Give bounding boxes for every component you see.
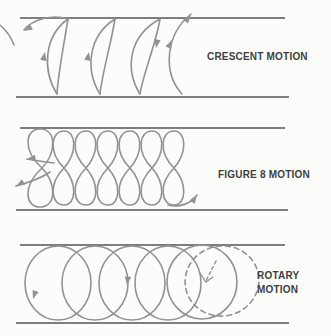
rotary-motion-label-line1: ROTARY bbox=[257, 269, 299, 283]
motion-patterns-diagram: CRESCENT MOTION FIGURE 8 MOTION ROTARY M… bbox=[0, 0, 331, 336]
rotary-motion-label: ROTARY MOTION bbox=[257, 269, 299, 297]
rotary-arrowheads bbox=[30, 276, 131, 300]
rotary-circles bbox=[25, 239, 265, 323]
figure8-motion-label: FIGURE 8 MOTION bbox=[218, 169, 310, 180]
rotary-motion-label-line2: MOTION bbox=[257, 283, 299, 297]
dashed-direction-arrow bbox=[200, 261, 216, 282]
figure8-curves bbox=[16, 129, 197, 207]
crescent-motion-label: CRESCENT MOTION bbox=[207, 51, 308, 62]
rotary-motion-drawing bbox=[16, 239, 289, 323]
